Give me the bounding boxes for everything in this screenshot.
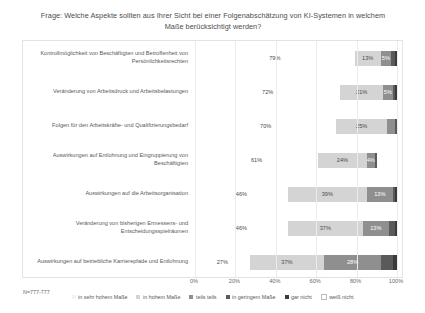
x-axis-tick: 0%: [190, 278, 198, 284]
gridline: [276, 41, 277, 277]
legend-item[interactable]: in sehr hohem Maße: [72, 294, 128, 300]
bar-segment: 27%: [195, 255, 250, 270]
segment-value-label: 37%: [320, 225, 331, 231]
bar-row: Veränderung von Arbeitsdruck und Arbeits…: [23, 75, 404, 109]
bar-segment: 39%: [288, 187, 367, 202]
segment-value-label: 46%: [236, 191, 247, 197]
bar-track: 46%39%13%: [195, 187, 397, 202]
bar-segment: 37%: [288, 221, 363, 236]
category-label: Auswirkungen auf betriebliche Karrierepf…: [23, 258, 195, 266]
bar-row: Kontrollmöglichkeit von Beschäftigten un…: [23, 41, 404, 75]
bar-track: 61%24%4%: [195, 153, 397, 168]
category-label: Auswirkungen auf die Arbeitsorganisation: [23, 190, 195, 198]
bar-segment: 70%: [195, 119, 336, 134]
x-axis-tick: 20%: [229, 278, 240, 284]
segment-value-label: 72%: [262, 89, 273, 95]
legend-label: in sehr hohem Maße: [78, 294, 127, 300]
category-label: Veränderung von bisherigen Ermessens- un…: [23, 220, 195, 235]
legend-swatch-icon: [136, 295, 140, 299]
bar-segment: 4%: [367, 153, 375, 168]
bar-segment: [387, 119, 395, 134]
bar-segment: 46%: [195, 221, 288, 236]
legend-item[interactable]: teils teils: [189, 294, 216, 300]
segment-value-label: 70%: [260, 123, 271, 129]
legend-label: in geringem Maße: [232, 294, 275, 300]
bar-segment: [381, 255, 393, 270]
bar-segment: 46%: [195, 187, 288, 202]
segment-value-label: 4%: [367, 157, 375, 163]
bar-row: Auswirkungen auf Entlohnung und Eingrupp…: [23, 143, 404, 177]
segment-value-label: 25%: [356, 123, 367, 129]
bar-row: Folgen für den Arbeitskräfte- und Qualif…: [23, 109, 404, 143]
legend-swatch-icon: [321, 294, 327, 300]
bar-segment: 5%: [381, 51, 391, 66]
category-label: Kontrollmöglichkeit von Beschäftigten un…: [23, 50, 195, 65]
legend-item[interactable]: weiß nicht: [321, 294, 354, 300]
gridline: [397, 41, 398, 277]
gridline: [235, 41, 236, 277]
segment-value-label: 37%: [281, 259, 292, 265]
bar-segment: 37%: [250, 255, 325, 270]
x-axis-tick: 100%: [389, 278, 403, 284]
segment-value-label: 27%: [217, 259, 228, 265]
legend-item[interactable]: gar nicht: [285, 294, 312, 300]
bar-segment: 13%: [363, 221, 389, 236]
gridline: [195, 41, 196, 277]
bar-segment: 72%: [195, 85, 340, 100]
bar-rows: Kontrollmöglichkeit von Beschäftigten un…: [23, 41, 404, 279]
x-axis-tick: 80%: [350, 278, 361, 284]
chart-container: Frage: Welche Aspekte sollten aus Ihrer …: [0, 0, 425, 313]
legend-label: gar nicht: [291, 294, 312, 300]
bar-segment: 13%: [355, 51, 381, 66]
bar-track: 72%21%5%: [195, 85, 397, 100]
category-label: Folgen für den Arbeitskräfte- und Qualif…: [23, 122, 195, 130]
segment-value-label: 24%: [337, 157, 348, 163]
segment-value-label: 13%: [370, 225, 381, 231]
segment-value-label: 61%: [251, 157, 262, 163]
gridline: [316, 41, 317, 277]
legend-item[interactable]: in hohem Maße: [136, 294, 180, 300]
legend-swatch-icon: [189, 295, 193, 299]
segment-value-label: 21%: [356, 89, 367, 95]
legend-item[interactable]: in geringem Maße: [226, 294, 276, 300]
bar-segment: 24%: [318, 153, 366, 168]
chart-title: Frage: Welche Aspekte sollten aus Ihrer …: [38, 10, 388, 32]
bar-segment: 13%: [367, 187, 393, 202]
chart-legend: in sehr hohem Maßein hohem Maßeteils tei…: [22, 291, 403, 303]
x-axis-tick: 60%: [310, 278, 321, 284]
legend-swatch-icon: [226, 295, 230, 299]
x-axis-tick: 40%: [269, 278, 280, 284]
bar-segment: 21%: [340, 85, 382, 100]
bar-row: Veränderung von bisherigen Ermessens- un…: [23, 211, 404, 245]
segment-value-label: 79%: [269, 55, 280, 61]
bar-segment: 5%: [383, 85, 393, 100]
plot-area: Kontrollmöglichkeit von Beschäftigten un…: [22, 40, 403, 278]
bar-track: 27%37%28%: [195, 255, 397, 270]
segment-value-label: 13%: [362, 55, 373, 61]
bar-track: 46%37%13%: [195, 221, 397, 236]
x-axis: 0%20%40%60%80%100%: [22, 278, 403, 289]
bar-row: Auswirkungen auf betriebliche Karrierepf…: [23, 245, 404, 279]
legend-swatch-icon: [285, 295, 289, 299]
bar-track: 79%13%5%: [195, 51, 397, 66]
bar-track: 70%25%: [195, 119, 397, 134]
bar-segment: 79%: [195, 51, 355, 66]
legend-label: teils teils: [196, 294, 217, 300]
category-label: Auswirkungen auf Entlohnung und Eingrupp…: [23, 152, 195, 167]
bar-row: Auswirkungen auf die Arbeitsorganisation…: [23, 177, 404, 211]
legend-label: in hohem Maße: [143, 294, 180, 300]
legend-label: weiß nicht: [329, 294, 353, 300]
bar-segment: 61%: [195, 153, 318, 168]
legend-swatch-icon: [72, 295, 76, 299]
category-label: Veränderung von Arbeitsdruck und Arbeits…: [23, 88, 195, 96]
segment-value-label: 39%: [322, 191, 333, 197]
segment-value-label: 5%: [382, 55, 390, 61]
bar-segment: [377, 153, 397, 168]
segment-value-label: 13%: [374, 191, 385, 197]
gridline: [357, 41, 358, 277]
bar-segment: 28%: [324, 255, 381, 270]
segment-value-label: 5%: [384, 89, 392, 95]
segment-value-label: 46%: [236, 225, 247, 231]
bar-segment: 25%: [336, 119, 387, 134]
